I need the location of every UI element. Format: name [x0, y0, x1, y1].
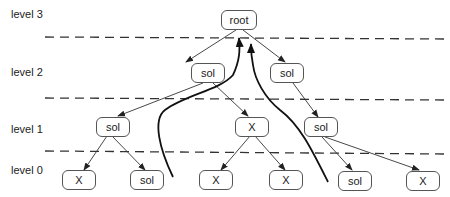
node-level1-sol-left: sol: [96, 117, 130, 137]
node-level0-sol-2: sol: [130, 170, 164, 190]
edge-l1c-l0f: [325, 137, 419, 170]
level-label-0: level 0: [11, 164, 43, 176]
upward-path-left: [158, 38, 239, 177]
level-divider-3-2: [45, 37, 445, 39]
node-level1-x-mid: X: [235, 117, 269, 137]
node-level0-x-6: X: [406, 171, 440, 191]
level-divider-1-0: [45, 151, 445, 154]
node-level0-x-4: X: [269, 170, 303, 190]
level-label-1: level 1: [11, 123, 43, 135]
node-level0-x-3: X: [199, 170, 233, 190]
edge-l1a-l0a: [84, 136, 107, 170]
node-level2-sol-right: sol: [270, 63, 304, 83]
node-level2-sol-left: sol: [191, 63, 225, 83]
edge-l2b-l1c: [293, 83, 318, 117]
level-divider-2-1: [45, 98, 445, 100]
node-root: root: [221, 10, 257, 30]
edge-root-sol-right: [243, 30, 285, 62]
edge-l1a-l0b: [112, 136, 145, 170]
edge-l2a-l1a: [118, 83, 203, 116]
node-level1-sol-right: sol: [304, 117, 338, 137]
level-label-2: level 2: [11, 66, 43, 78]
edge-root-sol-left: [186, 30, 236, 62]
node-level0-x-1: X: [62, 170, 96, 190]
node-level0-sol-5: sol: [338, 171, 372, 191]
level-label-3: level 3: [11, 8, 43, 20]
